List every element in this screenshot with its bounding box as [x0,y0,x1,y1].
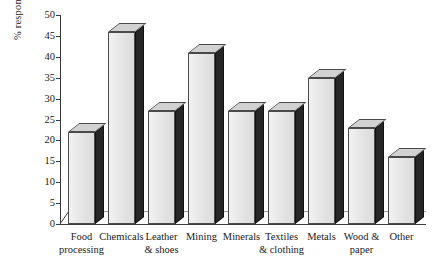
bar-front-face [148,111,175,224]
bar-front-face [308,78,335,224]
bar-front-face [268,111,295,224]
bar [388,157,415,224]
x-axis-label: Other [378,230,425,243]
y-tick-label: 50 [45,10,56,21]
y-tick-label: 10 [45,177,56,188]
bar-front-face [388,157,415,224]
bar-front-face [228,111,255,224]
x-axis-label-line: processing [58,243,105,256]
bar-front-face [108,32,135,224]
y-tick-label: 40 [45,52,56,63]
y-tick-label: 35 [45,72,56,83]
y-tick-label: 5 [50,198,55,209]
bars-layer [60,10,432,228]
y-tick-label: 0 [50,219,55,230]
y-tick-label: 15 [45,156,56,167]
y-tick-label: 30 [45,93,56,104]
y-axis-title-text: % responding "yes" [12,0,23,40]
bar-side-face [375,121,384,224]
bar [188,53,215,224]
x-axis-label-line: & shoes [138,243,185,256]
bar-side-face [95,125,104,224]
bar-side-face [295,104,304,224]
bar-front-face [188,53,215,224]
y-tick-label: 25 [45,114,56,125]
bar-side-face [335,71,344,224]
y-tick-label: 45 [45,31,56,42]
bar-front-face [348,128,375,224]
x-axis-label-line: Other [378,230,425,243]
bar [228,111,255,224]
bar [108,32,135,224]
bar-front-face [68,132,95,224]
bar [148,111,175,224]
x-axis-label-line: paper [338,243,385,256]
bar-side-face [255,104,264,224]
bar-side-face [415,150,424,224]
x-axis-category-labels: FoodprocessingChemicalsLeather& shoesMin… [60,230,438,268]
plot-area: 50454035302520151050 [60,10,432,228]
bar-side-face [135,25,144,224]
x-axis-label-line: & clothing [258,243,305,256]
bar-side-face [215,46,224,224]
y-tick-label: 20 [45,135,56,146]
bar [68,132,95,224]
bar [348,128,375,224]
bar [268,111,295,224]
bar-chart: % responding "yes" 50454035302520151050 … [0,0,439,268]
y-axis-title: % responding "yes" [12,0,23,40]
bar [308,78,335,224]
bar-side-face [175,104,184,224]
